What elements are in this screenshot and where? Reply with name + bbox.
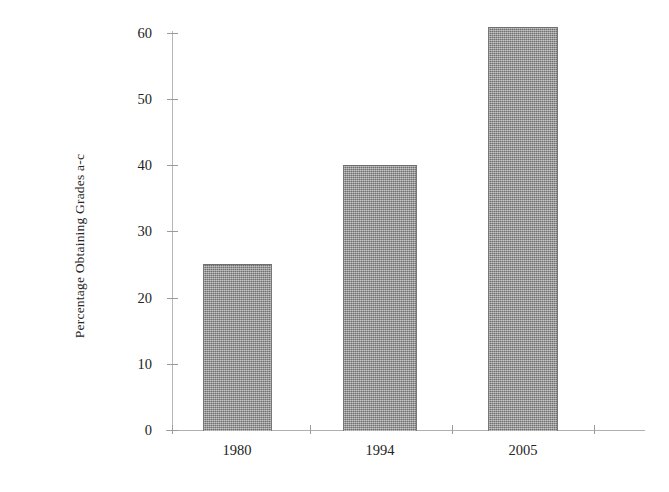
y-tick-label-20: 20 [106,291,152,306]
x-tick-label-1980: 1980 [177,443,297,458]
y-tick-mark-60 [167,33,178,34]
y-tick-label-0: 0 [106,423,152,438]
y-tick-mark-50 [167,99,178,100]
y-tick-mark-20 [167,298,178,299]
bar-1980 [203,264,272,431]
x-tick-mark-left [172,425,173,434]
bar-chart: Percentage Obtaining Grades a-c 60 50 40… [0,0,669,492]
y-tick-mark-10 [167,364,178,365]
x-tick-mark-1 [310,425,311,434]
y-axis-title: Percentage Obtaining Grades a-c [40,0,120,492]
bar-2005 [488,27,558,431]
x-tick-mark-3 [594,425,595,434]
y-tick-label-30: 30 [106,224,152,239]
y-tick-mark-30 [167,231,178,232]
x-tick-label-1994: 1994 [320,443,440,458]
y-tick-label-40: 40 [106,158,152,173]
bar-1994 [343,165,417,431]
y-tick-label-60: 60 [106,26,152,41]
y-tick-mark-40 [167,165,178,166]
y-tick-label-50: 50 [106,92,152,107]
y-tick-label-10: 10 [106,357,152,372]
x-tick-mark-2 [452,425,453,434]
x-tick-label-2005: 2005 [463,443,583,458]
